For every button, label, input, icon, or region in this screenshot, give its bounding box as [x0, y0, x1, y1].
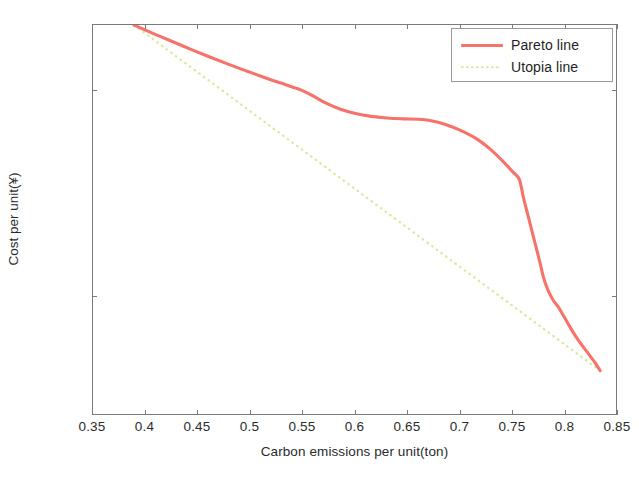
chart-legend: Pareto line Utopia line [451, 28, 613, 82]
x-tick-mark [197, 24, 198, 29]
x-tick-label: 0.75 [498, 419, 525, 434]
x-tick-label: 0.85 [603, 419, 630, 434]
x-axis-label: Carbon emissions per unit(ton) [92, 444, 617, 459]
x-tick-mark [565, 410, 566, 415]
legend-item-pareto: Pareto line [452, 34, 612, 56]
x-tick-mark [407, 410, 408, 415]
x-tick-mark [302, 24, 303, 29]
plot-svg [93, 25, 618, 416]
x-tick-mark [512, 410, 513, 415]
x-tick-mark [197, 410, 198, 415]
legend-label-pareto: Pareto line [511, 37, 579, 53]
legend-item-utopia: Utopia line [452, 56, 612, 78]
x-tick-mark [145, 24, 146, 29]
x-tick-mark [145, 410, 146, 415]
y-tick-mark [92, 296, 97, 297]
legend-label-utopia: Utopia line [511, 59, 578, 75]
x-tick-label: 0.5 [240, 419, 259, 434]
x-tick-mark [460, 410, 461, 415]
x-tick-mark [355, 24, 356, 29]
y-tick-mark [92, 90, 97, 91]
x-tick-label: 0.45 [183, 419, 210, 434]
y-tick-mark [612, 296, 617, 297]
x-tick-label: 0.65 [393, 419, 420, 434]
x-tick-mark [250, 410, 251, 415]
solid-line-swatch-icon [461, 39, 503, 51]
x-tick-mark [92, 410, 93, 415]
x-tick-mark [617, 410, 618, 415]
x-tick-mark [302, 410, 303, 415]
y-tick-mark [612, 90, 617, 91]
x-tick-label: 0.8 [555, 419, 574, 434]
dotted-line-swatch-icon [461, 61, 503, 73]
x-tick-label: 0.35 [78, 419, 105, 434]
x-tick-label: 0.4 [135, 419, 154, 434]
chart-figure: 0.350.40.450.50.550.60.650.70.750.80.851… [0, 0, 639, 479]
x-tick-mark [617, 24, 618, 29]
y-axis-label: Cost per unit(¥) [6, 172, 21, 265]
x-tick-mark [407, 24, 408, 29]
x-tick-mark [92, 24, 93, 29]
x-tick-mark [250, 24, 251, 29]
x-tick-label: 0.7 [450, 419, 469, 434]
x-tick-label: 0.6 [345, 419, 364, 434]
x-tick-label: 0.55 [288, 419, 315, 434]
plot-area [92, 24, 617, 415]
x-tick-mark [355, 410, 356, 415]
